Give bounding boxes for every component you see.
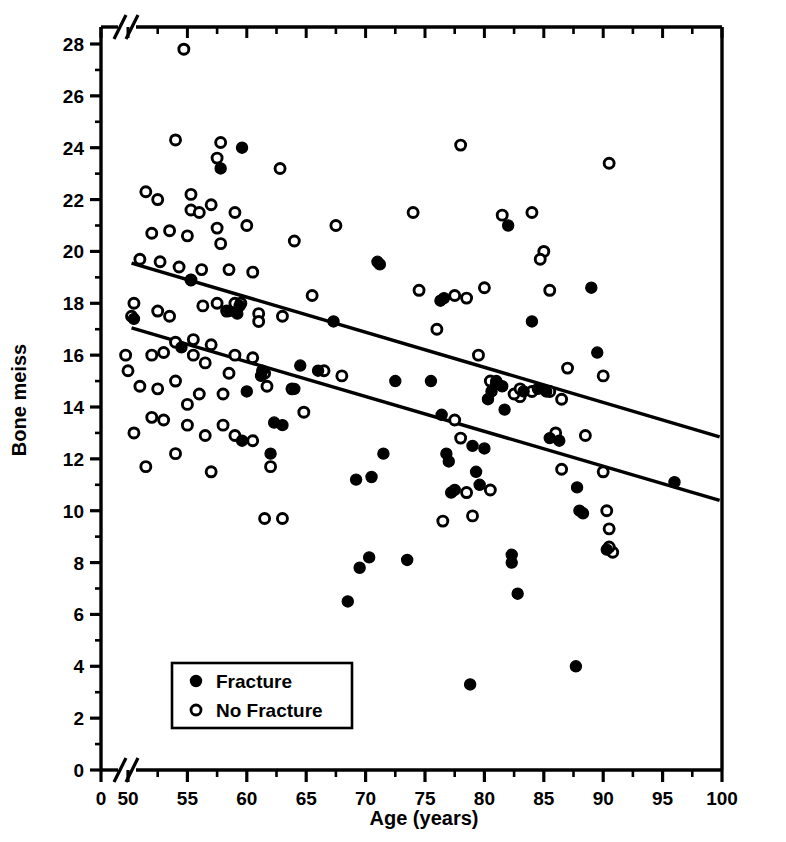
svg-text:6: 6 — [73, 604, 84, 625]
svg-text:70: 70 — [355, 788, 376, 809]
svg-text:16: 16 — [63, 345, 84, 366]
legend: Fracture No Fracture — [172, 663, 352, 728]
svg-text:28: 28 — [63, 34, 84, 55]
svg-text:95: 95 — [652, 788, 674, 809]
scatter-plot-figure: 0246810121416182022242628 05055606570758… — [0, 0, 786, 842]
svg-text:12: 12 — [63, 449, 84, 470]
svg-text:75: 75 — [414, 788, 436, 809]
svg-text:55: 55 — [177, 788, 199, 809]
legend-marker-no-fracture-icon — [191, 705, 201, 715]
y-axis-title: Bone meiss — [8, 344, 30, 456]
svg-text:4: 4 — [73, 656, 84, 677]
svg-text:0: 0 — [73, 760, 84, 781]
legend-marker-fracture-icon — [191, 676, 202, 687]
svg-text:60: 60 — [236, 788, 257, 809]
svg-text:65: 65 — [296, 788, 318, 809]
svg-text:24: 24 — [63, 138, 85, 159]
svg-text:2: 2 — [73, 708, 84, 729]
svg-text:85: 85 — [533, 788, 555, 809]
svg-text:18: 18 — [63, 293, 84, 314]
svg-text:14: 14 — [63, 397, 85, 418]
svg-text:26: 26 — [63, 86, 84, 107]
plot-canvas: 0246810121416182022242628 05055606570758… — [0, 0, 786, 842]
svg-text:50: 50 — [117, 788, 138, 809]
legend-label-fracture: Fracture — [216, 671, 292, 692]
svg-text:80: 80 — [474, 788, 495, 809]
svg-text:8: 8 — [73, 553, 84, 574]
svg-text:10: 10 — [63, 501, 84, 522]
svg-text:20: 20 — [63, 241, 84, 262]
svg-text:90: 90 — [593, 788, 614, 809]
legend-label-no-fracture: No Fracture — [216, 700, 323, 721]
svg-text:0: 0 — [96, 788, 107, 809]
svg-text:22: 22 — [63, 190, 84, 211]
svg-text:100: 100 — [706, 788, 738, 809]
x-axis-title: Age (years) — [370, 807, 479, 829]
